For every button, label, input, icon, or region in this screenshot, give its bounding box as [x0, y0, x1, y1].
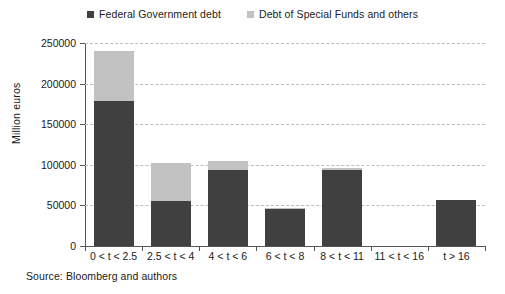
bar-segment [322, 170, 362, 246]
legend-swatch-federal-government-debt [87, 11, 94, 18]
x-axis-labels: 0 < t < 2.52.5 < t < 44 < t < 66 < t < 8… [85, 250, 485, 266]
y-axis-title: Million euros [10, 82, 22, 144]
bar-stack [151, 163, 191, 246]
bar-stack [436, 200, 476, 246]
y-tick-label: 50000 [47, 199, 76, 211]
legend-entry-federal-government-debt: Federal Government debt [87, 8, 221, 20]
x-tick-mark [371, 246, 372, 251]
y-tick-label: 100000 [41, 159, 76, 171]
x-tick-label: 2.5 < t < 4 [147, 250, 194, 262]
x-tick-mark [428, 246, 429, 251]
y-tick-label: 150000 [41, 118, 76, 130]
x-tick-mark [142, 246, 143, 251]
bar-segment [151, 201, 191, 246]
legend-label-special-funds-debt: Debt of Special Funds and others [259, 8, 418, 20]
source-note: Source: Bloomberg and authors [26, 270, 177, 282]
x-tick-label: 8 < t < 11 [320, 250, 364, 262]
bar-segment [94, 101, 134, 246]
x-tick-mark [256, 246, 257, 251]
legend-label-federal-government-debt: Federal Government debt [99, 8, 221, 20]
bar-stack [322, 168, 362, 246]
legend-swatch-special-funds-debt [247, 11, 254, 18]
bar-segment [208, 161, 248, 171]
x-tick-label: 11 < t < 16 [375, 250, 424, 262]
bar-segment [151, 163, 191, 201]
y-tick-label: 250000 [41, 37, 76, 49]
plot-area: 050000100000150000200000250000 [85, 43, 485, 246]
x-tick-mark [314, 246, 315, 251]
bar-segment [94, 51, 134, 101]
chart-legend: Federal Government debt Debt of Special … [0, 8, 505, 20]
bar-stack [265, 208, 305, 246]
chart-figure: Federal Government debt Debt of Special … [0, 0, 505, 294]
x-tick-label: 0 < t < 2.5 [90, 250, 137, 262]
y-tick-label: 0 [70, 240, 76, 252]
bars-layer [85, 43, 485, 246]
x-tick-mark [485, 246, 486, 251]
x-tick-label: 6 < t < 8 [266, 250, 305, 262]
bar-segment [265, 209, 305, 246]
bar-segment [208, 170, 248, 246]
x-tick-label: t > 16 [443, 250, 470, 262]
x-tick-mark [85, 246, 86, 251]
bar-stack [208, 161, 248, 246]
bar-segment [436, 200, 476, 246]
legend-entry-special-funds-debt: Debt of Special Funds and others [247, 8, 418, 20]
x-tick-mark [199, 246, 200, 251]
bar-stack [94, 51, 134, 246]
x-axis-line [85, 246, 485, 247]
y-tick-label: 200000 [41, 78, 76, 90]
x-tick-label: 4 < t < 6 [209, 250, 248, 262]
